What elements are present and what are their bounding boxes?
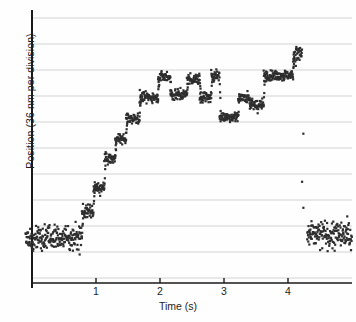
data-point [67,240,69,242]
data-point [147,99,149,101]
data-point [138,115,140,117]
data-point [62,245,64,247]
data-point [292,60,294,62]
data-point [82,223,84,225]
data-point [219,91,221,93]
data-point [171,92,173,94]
data-point [93,195,95,197]
y-axis-label: Position (36 nm per division) [24,1,36,201]
data-point [250,107,252,109]
data-point [86,216,88,218]
data-point [40,229,42,231]
data-point [325,242,327,244]
data-point [307,234,309,236]
data-point [41,250,43,252]
data-point [57,234,59,236]
data-point [59,241,61,243]
data-point [114,157,116,159]
data-point [265,80,267,82]
data-point [324,220,326,222]
data-point [47,232,49,234]
data-point [263,96,265,98]
data-point [328,235,330,237]
data-point [350,240,352,242]
data-point [323,226,325,228]
data-point [158,84,160,86]
data-point [218,72,220,74]
data-point [65,229,67,231]
data-point [346,215,348,217]
data-point [69,249,71,251]
data-point [88,210,90,212]
data-point [331,222,333,224]
data-point [291,70,293,72]
data-point [122,133,124,135]
data-point [139,104,141,106]
data-point-group [25,46,353,256]
data-point [34,233,36,235]
data-point [94,181,96,183]
data-point [75,221,77,223]
data-point [160,70,162,72]
data-point [138,119,140,121]
data-point [125,132,127,134]
data-point [53,246,55,248]
data-point [169,76,171,78]
data-point [289,77,291,79]
data-point [141,96,143,98]
data-point [220,110,222,112]
data-point [308,243,310,245]
data-point [33,244,35,246]
data-point [300,55,302,57]
data-point [342,233,344,235]
data-point [199,88,201,90]
data-point [328,245,330,247]
data-point [315,242,317,244]
data-point [262,101,264,103]
data-point [293,54,295,56]
data-point [314,235,316,237]
data-point [56,232,58,234]
data-point [121,135,123,137]
data-point [347,233,349,235]
data-point [36,236,38,238]
data-point [92,214,94,216]
data-point [77,234,79,236]
data-point [327,250,329,252]
data-point [219,97,221,99]
data-point [44,223,46,225]
data-point [29,241,31,243]
data-point [151,102,153,104]
data-point [115,144,117,146]
data-point [302,133,304,135]
data-point [139,89,141,91]
data-point [286,71,288,73]
data-point [309,228,311,230]
data-point [348,222,350,224]
data-point [87,212,89,214]
data-point [186,88,188,90]
data-point [98,191,100,193]
data-point [215,68,217,70]
data-point [199,79,201,81]
data-point [294,51,296,53]
data-point [79,238,81,240]
data-point [319,249,321,251]
data-point [68,242,70,244]
data-point [337,229,339,231]
data-point [218,76,220,78]
data-point [326,228,328,230]
data-point [70,239,72,241]
data-point [320,221,322,223]
data-point [31,241,33,243]
data-point [87,203,89,205]
data-point [187,86,189,88]
data-point [247,94,249,96]
data-point [199,82,201,84]
data-point [346,237,348,239]
data-point [179,98,181,100]
data-point [176,98,178,100]
data-point [97,182,99,184]
data-point [293,65,295,67]
data-point [36,246,38,248]
